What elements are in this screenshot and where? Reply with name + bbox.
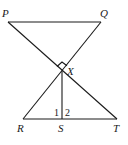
label-s: S <box>58 122 64 134</box>
angle-label-2: 2 <box>65 107 70 118</box>
label-x: X <box>66 65 75 77</box>
label-q: Q <box>100 7 108 19</box>
label-r: R <box>16 122 24 134</box>
angle-label-1: 1 <box>54 107 59 118</box>
label-p: P <box>1 7 9 19</box>
label-t: T <box>113 122 120 134</box>
geometry-diagram: P Q X R S T 1 2 <box>0 0 128 145</box>
